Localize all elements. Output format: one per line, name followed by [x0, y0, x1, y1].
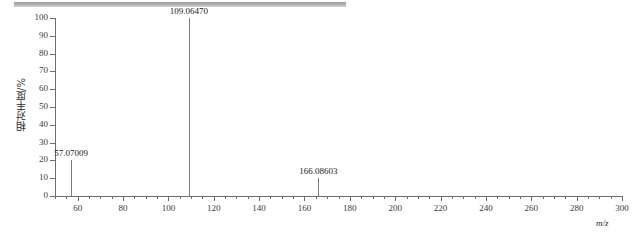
y-tick-label: 90 [16, 31, 48, 40]
x-tick-label: 180 [330, 203, 370, 213]
x-tick-minor [316, 196, 317, 199]
peak-label: 109.06470 [144, 6, 234, 16]
x-axis-title: m/z [596, 218, 609, 228]
x-tick-major [622, 196, 623, 201]
y-tick [50, 160, 55, 161]
peak-bar [318, 178, 319, 196]
y-tick-label: 50 [16, 102, 48, 111]
x-tick-minor [248, 196, 249, 199]
x-tick-minor [202, 196, 203, 199]
x-tick-minor [611, 196, 612, 199]
x-tick-minor [554, 196, 555, 199]
y-tick-label: 100 [16, 13, 48, 22]
x-tick-label: 240 [466, 203, 506, 213]
x-tick-major [78, 196, 79, 201]
x-tick-minor [452, 196, 453, 199]
x-tick-major [168, 196, 169, 201]
x-tick-minor [100, 196, 101, 199]
x-tick-minor [327, 196, 328, 199]
x-tick-minor [282, 196, 283, 199]
x-tick-label: 300 [602, 203, 636, 213]
y-tick-label: 40 [16, 120, 48, 129]
x-tick-label: 100 [148, 203, 188, 213]
x-tick-label: 260 [511, 203, 551, 213]
x-tick-minor [191, 196, 192, 199]
x-tick-major [395, 196, 396, 201]
x-tick-minor [270, 196, 271, 199]
x-tick-minor [599, 196, 600, 199]
x-tick-label: 200 [375, 203, 415, 213]
y-tick [50, 54, 55, 55]
x-tick-major [304, 196, 305, 201]
x-tick-label: 140 [239, 203, 279, 213]
y-tick [50, 89, 55, 90]
x-tick-minor [520, 196, 521, 199]
x-tick-minor [180, 196, 181, 199]
x-tick-minor [497, 196, 498, 199]
x-tick-minor [418, 196, 419, 199]
x-tick-label: 160 [284, 203, 324, 213]
x-tick-major [259, 196, 260, 201]
x-tick-minor [543, 196, 544, 199]
x-tick-minor [293, 196, 294, 199]
x-tick-major [531, 196, 532, 201]
x-tick-minor [236, 196, 237, 199]
y-axis-line [55, 18, 56, 197]
y-tick [50, 143, 55, 144]
y-tick-label: 10 [16, 173, 48, 182]
y-tick-label: 60 [16, 84, 48, 93]
peak-label: 57.07009 [26, 148, 116, 158]
peak-bar [71, 160, 72, 196]
x-tick-label: 220 [421, 203, 461, 213]
peak-label: 166.08603 [273, 166, 363, 176]
y-tick [50, 107, 55, 108]
x-tick-major [441, 196, 442, 201]
x-tick-label: 120 [194, 203, 234, 213]
x-tick-minor [361, 196, 362, 199]
x-tick-minor [146, 196, 147, 199]
y-tick [50, 178, 55, 179]
mass-spectrum-figure: 相对丰度/% m/z 0102030405060708090100 608010… [0, 0, 636, 240]
x-tick-minor [66, 196, 67, 199]
y-tick [50, 125, 55, 126]
y-tick-label: 80 [16, 49, 48, 58]
x-tick-minor [225, 196, 226, 199]
x-tick-label: 280 [557, 203, 597, 213]
y-tick [50, 18, 55, 19]
x-tick-minor [463, 196, 464, 199]
x-tick-minor [339, 196, 340, 199]
y-tick-label: 30 [16, 138, 48, 147]
x-tick-minor [373, 196, 374, 199]
y-tick [50, 36, 55, 37]
y-tick-label: 70 [16, 66, 48, 75]
x-tick-minor [407, 196, 408, 199]
y-tick [50, 71, 55, 72]
x-tick-major [123, 196, 124, 201]
x-tick-minor [55, 196, 56, 199]
x-tick-minor [112, 196, 113, 199]
peak-bar [189, 18, 190, 196]
x-tick-label: 80 [103, 203, 143, 213]
x-tick-minor [588, 196, 589, 199]
x-tick-minor [157, 196, 158, 199]
x-tick-major [577, 196, 578, 201]
y-tick-label: 0 [16, 191, 48, 200]
x-tick-minor [134, 196, 135, 199]
x-tick-minor [429, 196, 430, 199]
x-tick-major [486, 196, 487, 201]
x-tick-minor [89, 196, 90, 199]
x-tick-label: 60 [58, 203, 98, 213]
x-tick-minor [384, 196, 385, 199]
x-tick-minor [509, 196, 510, 199]
x-tick-minor [565, 196, 566, 199]
x-tick-major [350, 196, 351, 201]
x-tick-minor [475, 196, 476, 199]
x-tick-major [214, 196, 215, 201]
